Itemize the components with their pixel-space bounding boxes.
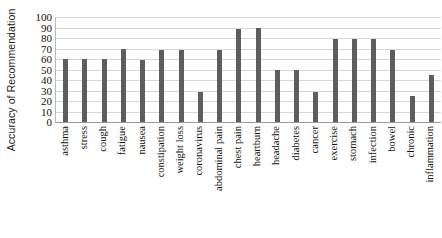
accuracy-bar-chart: Accuracy of Recommendation 1009080706050…	[0, 0, 442, 238]
bar-slot	[95, 17, 114, 122]
x-label-slot: coronavirus	[190, 124, 209, 236]
bar	[82, 59, 87, 122]
x-label-slot: infection	[363, 124, 382, 236]
x-label-slot: exercise	[325, 124, 344, 236]
bar	[140, 60, 145, 122]
x-label-slot: stress	[74, 124, 93, 236]
y-axis-title: Accuracy of Recommendation	[0, 0, 22, 160]
bar-slot	[133, 17, 152, 122]
bar-slot	[287, 17, 306, 122]
bar-slot	[229, 17, 248, 122]
x-label-slot: asthma	[55, 124, 74, 236]
plot-wrapper: 1009080706050403020100 asthmastresscough…	[30, 12, 442, 238]
bar-slot	[249, 17, 268, 122]
x-label-slot: heartburn	[248, 124, 267, 236]
bar	[410, 96, 415, 122]
bar	[63, 59, 68, 122]
x-label-slot: stomach	[344, 124, 363, 236]
bar-slot	[191, 17, 210, 122]
bar	[217, 50, 222, 122]
bar-slot	[152, 17, 171, 122]
x-tick-label: stress	[79, 126, 90, 149]
x-tick-label: constipation	[156, 126, 167, 177]
x-tick-label: diabetes	[290, 126, 301, 160]
x-tick-label: inflammation	[425, 126, 436, 183]
y-axis-ticks: 1009080706050403020100	[30, 12, 52, 122]
x-tick-label: cancer	[310, 126, 321, 153]
bar-slot	[345, 17, 364, 122]
bar-slot	[210, 17, 229, 122]
x-tick-label: weight loss	[175, 126, 186, 174]
bar-slot	[172, 17, 191, 122]
bar-slot	[364, 17, 383, 122]
bar-slot	[75, 17, 94, 122]
x-tick-label: cough	[98, 126, 109, 152]
bar-slot	[114, 17, 133, 122]
x-label-slot: cancer	[305, 124, 324, 236]
bar-series	[56, 17, 441, 122]
x-tick-label: asthma	[59, 126, 70, 156]
x-label-slot: headache	[267, 124, 286, 236]
x-tick-label: bowel	[387, 126, 398, 152]
x-tick-label: exercise	[329, 126, 340, 160]
y-tick-label: 0	[47, 117, 53, 128]
bar	[121, 49, 126, 123]
bar	[102, 59, 107, 122]
bar-slot	[422, 17, 441, 122]
bar	[198, 92, 203, 122]
x-label-slot: nausea	[132, 124, 151, 236]
bar	[275, 70, 280, 123]
x-tick-label: coronavirus	[194, 126, 205, 176]
x-label-slot: diabetes	[286, 124, 305, 236]
x-label-slot: weight loss	[171, 124, 190, 236]
bar	[236, 29, 241, 122]
x-tick-label: heartburn	[252, 126, 263, 166]
x-tick-label: stomach	[348, 126, 359, 161]
x-label-slot: inflammation	[421, 124, 440, 236]
plot-area	[55, 17, 441, 123]
bar-slot	[326, 17, 345, 122]
bar	[159, 50, 164, 122]
x-tick-label: fatigue	[117, 126, 128, 155]
x-tick-label: headache	[271, 126, 282, 165]
bar-slot	[56, 17, 75, 122]
bar	[429, 75, 434, 122]
bar	[371, 39, 376, 122]
bar-slot	[403, 17, 422, 122]
x-label-slot: constipation	[151, 124, 170, 236]
x-tick-label: abdominal pain	[213, 126, 224, 191]
x-label-slot: cough	[94, 124, 113, 236]
x-tick-label: nausea	[136, 126, 147, 155]
bar-slot	[383, 17, 402, 122]
bar-slot	[268, 17, 287, 122]
bar	[313, 92, 318, 122]
x-tick-label: chronic	[406, 126, 417, 158]
x-label-slot: abdominal pain	[209, 124, 228, 236]
x-label-slot: chronic	[402, 124, 421, 236]
x-tick-label: chest pain	[233, 126, 244, 168]
bar	[256, 28, 261, 123]
bar	[179, 50, 184, 122]
bar	[333, 39, 338, 122]
bar	[294, 70, 299, 123]
x-label-slot: bowel	[382, 124, 401, 236]
bar-slot	[306, 17, 325, 122]
bar	[352, 39, 357, 122]
bar	[390, 50, 395, 122]
x-label-slot: fatigue	[113, 124, 132, 236]
x-tick-label: infection	[367, 126, 378, 163]
x-axis-labels: asthmastresscoughfatiguenauseaconstipati…	[55, 124, 440, 236]
x-label-slot: chest pain	[228, 124, 247, 236]
y-axis-title-label: Accuracy of Recommendation	[5, 9, 17, 152]
